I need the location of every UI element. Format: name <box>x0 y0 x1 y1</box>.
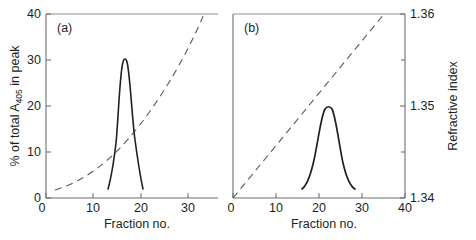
panel-b-ytick-134: 1.34 <box>410 191 434 205</box>
chart-svg: 0 10 20 30 40 0 10 20 30 (a) Fraction no… <box>0 0 476 240</box>
panel-b-y-axis-title-text: Refractive index <box>446 60 460 150</box>
panel-b-gradient-line <box>233 14 384 198</box>
panel-a-ytick-10: 10 <box>27 145 41 159</box>
panel-a-label: (a) <box>57 21 72 35</box>
panel-b-y-ticks <box>400 14 405 198</box>
panel-a-xtick-20: 20 <box>134 201 148 215</box>
panel-b-peak-curve <box>302 107 355 189</box>
panel-a-ytick-30: 30 <box>27 53 41 67</box>
panel-a-y-ticks <box>46 14 51 198</box>
panel-a-gradient-curve <box>55 14 204 190</box>
panel-a-y-title-sub: 405 <box>14 89 24 103</box>
panel-a-y-title-pre: % of total A <box>8 103 22 167</box>
panel-a-xtick-0: 0 <box>39 201 46 215</box>
panel-b-y-axis-title: Refractive index <box>446 60 460 150</box>
panel-b-xtick-20: 20 <box>312 201 326 215</box>
panel-b: 0 10 20 30 40 1.34 1.35 1.36 (b) Fractio… <box>228 7 460 231</box>
panel-b-ytick-135: 1.35 <box>410 99 434 113</box>
panel-a: 0 10 20 30 40 0 10 20 30 (a) Fraction no… <box>8 7 218 231</box>
panel-a-xtick-30: 30 <box>181 201 195 215</box>
panel-a-y-axis-title: % of total A405 in peak <box>8 45 24 167</box>
panel-a-x-axis-title: Fraction no. <box>104 217 170 231</box>
panel-b-label: (b) <box>244 21 259 35</box>
panel-b-xtick-0: 0 <box>228 201 235 215</box>
panel-b-xtick-30: 30 <box>355 201 369 215</box>
panel-b-x-axis-title: Fraction no. <box>291 217 357 231</box>
panel-b-xtick-10: 10 <box>269 201 283 215</box>
figure-container: 0 10 20 30 40 0 10 20 30 (a) Fraction no… <box>0 0 476 240</box>
panel-b-ytick-136: 1.36 <box>410 7 434 21</box>
panel-a-y-title-post: in peak <box>8 45 22 90</box>
panel-b-x-ticks <box>233 193 405 198</box>
panel-a-ytick-40: 40 <box>27 7 41 21</box>
panel-a-ytick-20: 20 <box>27 99 41 113</box>
panel-a-x-ticks <box>46 193 188 198</box>
panel-a-xtick-10: 10 <box>86 201 100 215</box>
panel-a-peak-curve <box>108 59 143 189</box>
svg-text:% of total A405 in peak: % of total A405 in peak <box>8 45 24 167</box>
